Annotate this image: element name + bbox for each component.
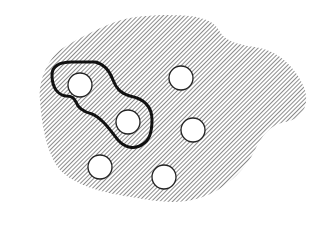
hole-circle bbox=[88, 155, 112, 179]
hole-circle bbox=[68, 73, 92, 97]
hole-circle bbox=[116, 110, 140, 134]
hole-circle bbox=[169, 66, 193, 90]
hole-circle bbox=[181, 118, 205, 142]
diagram-canvas bbox=[0, 0, 322, 225]
hole-circle bbox=[152, 165, 176, 189]
